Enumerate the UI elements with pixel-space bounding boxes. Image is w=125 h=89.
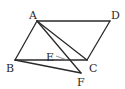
label-d: D <box>111 9 120 22</box>
label-a: A <box>28 9 38 22</box>
segment-dc <box>87 21 110 60</box>
geometry-figure: A D B C E F <box>0 0 125 89</box>
segment-ac <box>37 21 87 60</box>
label-f: F <box>77 76 85 89</box>
segment-ab <box>15 21 37 60</box>
label-b: B <box>6 62 14 75</box>
label-e: E <box>46 51 54 64</box>
label-c: C <box>89 62 97 75</box>
